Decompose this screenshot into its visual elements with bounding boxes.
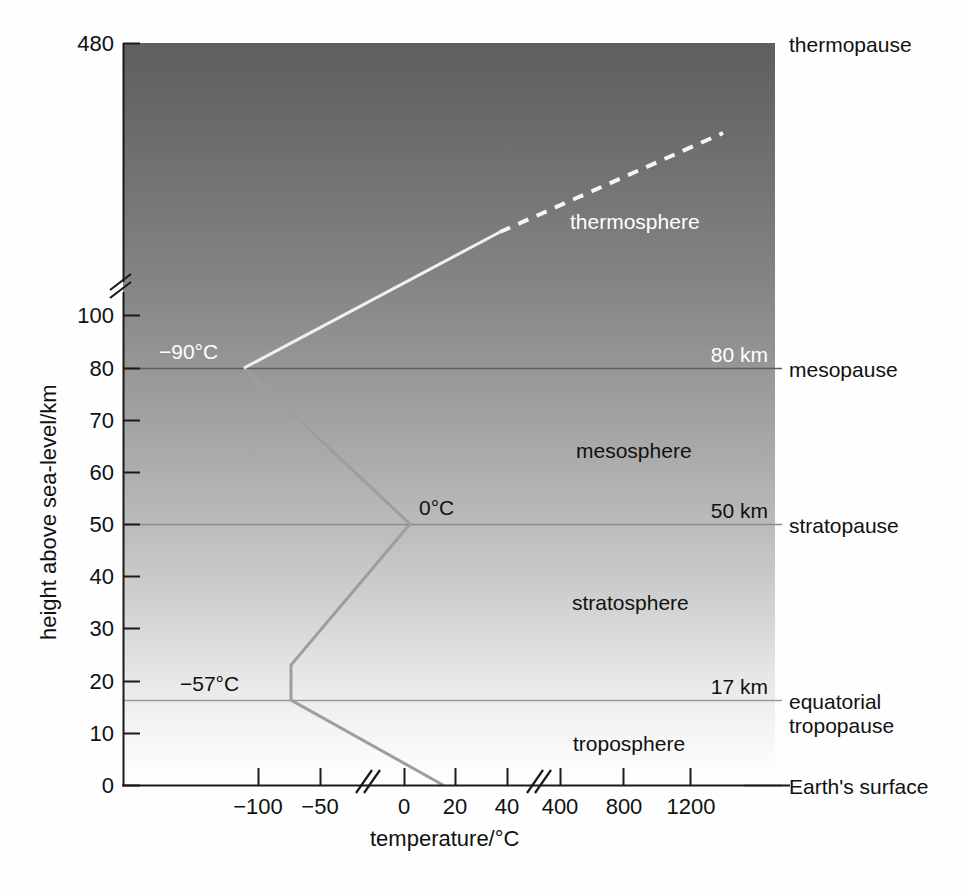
boundary-label-equatorial-tropopause: equatorial tropopause bbox=[789, 690, 894, 737]
altitude-label-17km: 17 km bbox=[640, 676, 768, 697]
x-tick-label-1200: 1200 bbox=[631, 796, 751, 818]
altitude-label-80km: 80 km bbox=[640, 344, 768, 365]
chart-canvas bbox=[0, 0, 968, 896]
y-tick-label-50: 50 bbox=[58, 514, 114, 536]
equatorial-tropopause-line-2: tropopause bbox=[789, 714, 894, 737]
y-tick-label-70: 70 bbox=[58, 410, 114, 432]
layer-label-troposphere: troposphere bbox=[573, 733, 685, 754]
y-tick-label-480: 480 bbox=[58, 33, 114, 55]
altitude-label-50km: 50 km bbox=[640, 500, 768, 521]
boundary-label-thermopause: thermopause bbox=[789, 33, 912, 57]
temperature-annotation-minus57: −57°C bbox=[180, 673, 239, 694]
temperature-annotation-minus90: −90°C bbox=[159, 341, 218, 362]
y-tick-label-100: 100 bbox=[58, 305, 114, 327]
y-tick-label-0: 0 bbox=[58, 775, 114, 797]
temperature-annotation-zero: 0°C bbox=[419, 497, 454, 518]
y-tick-label-10: 10 bbox=[58, 723, 114, 745]
y-tick-label-40: 40 bbox=[58, 566, 114, 588]
layer-label-thermosphere: thermosphere bbox=[570, 211, 700, 232]
boundary-label-earths-surface: Earth's surface bbox=[789, 775, 928, 799]
y-tick-label-30: 30 bbox=[58, 618, 114, 640]
boundary-label-mesopause: mesopause bbox=[789, 358, 898, 382]
y-tick-label-20: 20 bbox=[58, 671, 114, 693]
layer-label-mesosphere: mesosphere bbox=[576, 440, 692, 461]
y-tick-label-80: 80 bbox=[58, 358, 114, 380]
equatorial-tropopause-line-1: equatorial bbox=[789, 690, 881, 713]
atmosphere-temperature-profile-figure: 480 100 80 70 60 50 40 30 20 10 0 −100 −… bbox=[0, 0, 968, 896]
boundary-label-stratopause: stratopause bbox=[789, 514, 899, 538]
x-axis-title: temperature/°C bbox=[370, 828, 519, 850]
y-tick-label-60: 60 bbox=[58, 462, 114, 484]
y-axis-title: height above sea-level/km bbox=[38, 384, 60, 640]
layer-label-stratosphere: stratosphere bbox=[572, 592, 689, 613]
